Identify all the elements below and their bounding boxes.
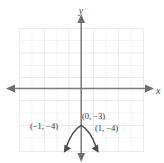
left-point-label: (−1, −4) (30, 121, 58, 131)
x-axis-right-arrowhead (145, 85, 154, 93)
x-axis (6, 85, 154, 93)
vertex-point-label: (0, −3) (82, 111, 105, 121)
right-point-label: (1, −4) (95, 123, 118, 133)
x-axis-label: x (155, 85, 161, 96)
graph-svg: y x (0, −3) (−1, −4) (1, −4) (0, 0, 164, 163)
y-axis-label: y (78, 5, 84, 16)
coordinate-plane-figure: y x (0, −3) (−1, −4) (1, −4) (0, 0, 164, 163)
x-axis-left-arrowhead (6, 85, 15, 93)
y-axis-down-arrowhead (77, 153, 85, 162)
